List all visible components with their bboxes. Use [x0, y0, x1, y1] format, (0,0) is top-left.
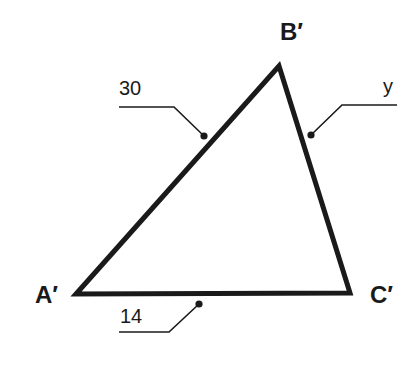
leader-side-bc [307, 105, 397, 139]
side-label-ac: 14 [120, 305, 142, 327]
triangle-a-b-c [76, 66, 350, 294]
leader-dot-icon [195, 300, 202, 307]
triangle-diagram: B′ A′ C′ 30 y 14 [0, 0, 420, 372]
vertex-label-a: A′ [35, 281, 58, 308]
leader-dot-icon [200, 132, 207, 139]
vertex-label-b: B′ [280, 18, 303, 45]
side-label-bc: y [383, 75, 393, 97]
leader-dot-icon [307, 131, 314, 138]
leader-side-ab [119, 107, 208, 140]
diagram-canvas: B′ A′ C′ 30 y 14 [0, 0, 420, 372]
vertex-label-c: C′ [370, 281, 393, 308]
side-label-ab: 30 [119, 77, 141, 99]
